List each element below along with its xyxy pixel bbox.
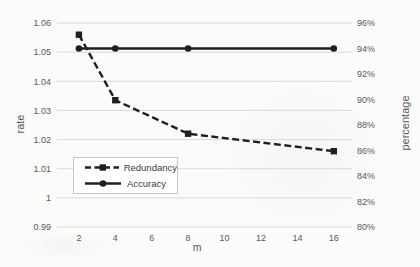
x-axis-tick-label: 16 bbox=[329, 233, 339, 243]
right-axis-tick-label: 94% bbox=[357, 44, 375, 54]
x-axis-tick-label: 14 bbox=[292, 233, 302, 243]
legend-label-accuracy: Accuracy bbox=[127, 178, 166, 189]
data-point-marker-square bbox=[331, 148, 337, 154]
solid-line-circle-marker-sample bbox=[84, 179, 122, 188]
right-axis-title: percentage bbox=[399, 95, 411, 150]
x-axis-tick-label: 10 bbox=[219, 233, 229, 243]
x-axis-tick-label: 12 bbox=[256, 233, 266, 243]
x-axis-tick-label: 6 bbox=[149, 233, 154, 243]
legend-item-redundancy: Redundancy bbox=[84, 162, 177, 173]
data-point-marker-circle bbox=[331, 45, 338, 52]
right-axis-tick-label: 86% bbox=[357, 146, 375, 156]
left-axis-title: rate bbox=[14, 115, 26, 134]
x-axis-tick-label: 4 bbox=[113, 233, 118, 243]
legend: Redundancy Accuracy bbox=[73, 157, 178, 194]
x-axis-title: m bbox=[193, 241, 202, 253]
left-axis-tick-label: 1.04 bbox=[33, 77, 51, 87]
left-axis-tick-label: 1.03 bbox=[33, 106, 51, 116]
right-axis-tick-label: 88% bbox=[357, 120, 375, 130]
data-point-marker-circle bbox=[112, 45, 119, 52]
data-point-marker-circle bbox=[76, 45, 83, 52]
chart-plot-area: 1.061.051.041.031.021.0110.9996%94%92%90… bbox=[0, 0, 420, 267]
right-axis-tick-label: 82% bbox=[357, 197, 375, 207]
data-point-marker-square bbox=[112, 97, 118, 103]
left-axis-tick-label: 1.06 bbox=[33, 18, 51, 28]
legend-item-accuracy: Accuracy bbox=[84, 178, 177, 189]
left-axis-tick-label: 1.01 bbox=[33, 164, 51, 174]
left-axis-tick-label: 1 bbox=[46, 193, 51, 203]
left-axis-tick-label: 1.02 bbox=[33, 135, 51, 145]
left-axis-tick-label: 0.99 bbox=[33, 222, 51, 232]
right-axis-tick-label: 92% bbox=[357, 69, 375, 79]
data-point-marker-square bbox=[76, 32, 82, 38]
data-point-marker-square bbox=[185, 131, 191, 137]
data-point-marker-circle bbox=[185, 45, 192, 52]
x-axis-tick-label: 8 bbox=[186, 233, 191, 243]
legend-label-redundancy: Redundancy bbox=[124, 162, 177, 173]
right-axis-tick-label: 96% bbox=[357, 18, 375, 28]
x-axis-tick-label: 2 bbox=[76, 233, 81, 243]
line-chart-figure: 1.061.051.041.031.021.0110.9996%94%92%90… bbox=[0, 0, 420, 267]
left-axis-tick-label: 1.05 bbox=[33, 47, 51, 57]
right-axis-tick-label: 90% bbox=[357, 95, 375, 105]
right-axis-tick-label: 84% bbox=[357, 171, 375, 181]
dashed-line-square-marker-sample bbox=[84, 163, 119, 172]
right-axis-tick-label: 80% bbox=[357, 222, 375, 232]
